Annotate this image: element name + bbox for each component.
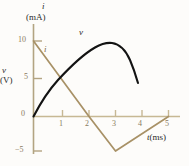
- x-axis-unit-ms: (ms): [150, 132, 167, 142]
- y-axis-unit-ma: (mA): [26, 13, 46, 22]
- y-axis-ticks: [34, 41, 43, 151]
- x-tick-label-2: 2: [85, 120, 89, 128]
- y-tick-label-0: 0: [21, 110, 25, 118]
- y-tick-label-minus5: −5: [15, 146, 24, 154]
- x-axis-label-t: t(ms): [147, 133, 166, 142]
- x-tick-label-1: 1: [59, 120, 63, 128]
- y-tick-label-10: 10: [18, 36, 26, 44]
- figure-graph: i (mA) v (V) t(ms) 10 5 0 −5 1 2 3 4 5 v…: [0, 0, 189, 166]
- y-axis-unit-v: (V): [0, 76, 13, 85]
- x-tick-label-3: 3: [112, 120, 116, 128]
- curve-v-voltage: [34, 43, 139, 117]
- x-tick-label-4: 4: [138, 120, 142, 128]
- y-tick-label-5: 5: [24, 73, 28, 81]
- curve-label-v: v: [79, 28, 83, 37]
- y-axis-label-i: i: [42, 2, 45, 11]
- x-tick-label-5: 5: [165, 120, 169, 128]
- y-axis-label-v: v: [2, 66, 6, 75]
- curve-label-i: i: [44, 45, 47, 54]
